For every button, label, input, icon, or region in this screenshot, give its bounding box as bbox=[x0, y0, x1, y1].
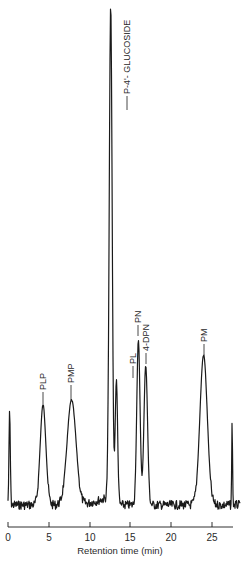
peak-label-plp: PLP bbox=[38, 373, 48, 390]
peak-leaders bbox=[43, 96, 204, 407]
x-tick-20: 20 bbox=[165, 532, 177, 543]
x-axis-title: Retention time (min) bbox=[77, 545, 163, 556]
peak-label-glucoside: P-4'- GLUCOSIDE bbox=[122, 20, 132, 94]
chromatogram-chart: PLP PMP P-4'- GLUCOSIDE PL PN 4-DPN PM 0… bbox=[0, 0, 248, 561]
x-axis: 0 5 10 15 20 25 Retention time (min) bbox=[5, 522, 233, 556]
peak-label-4dpn: 4-DPN bbox=[141, 324, 151, 351]
x-tick-15: 15 bbox=[124, 532, 136, 543]
peak-label-pn: PN bbox=[133, 310, 143, 323]
x-tick-0: 0 bbox=[5, 532, 11, 543]
peak-label-pmp: PMP bbox=[66, 363, 76, 383]
peak-label-pl: PL bbox=[128, 353, 138, 364]
peak-label-pm: PM bbox=[199, 329, 209, 343]
x-tick-10: 10 bbox=[84, 532, 96, 543]
x-tick-5: 5 bbox=[46, 532, 52, 543]
x-tick-25: 25 bbox=[206, 532, 218, 543]
